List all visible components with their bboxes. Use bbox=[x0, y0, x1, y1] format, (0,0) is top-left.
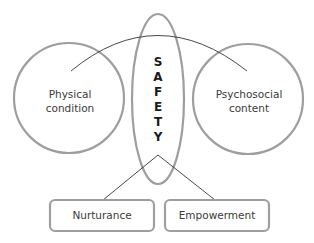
safety-letter-e: E bbox=[154, 100, 162, 114]
safety-letter-y: Y bbox=[153, 130, 163, 144]
safety-letter-s: S bbox=[154, 55, 163, 69]
safety-letter-a: A bbox=[153, 70, 163, 84]
nurturance-label: Nurturance bbox=[72, 209, 131, 221]
safety-letter-f: F bbox=[154, 85, 162, 99]
safety-ellipse bbox=[132, 14, 184, 184]
safety-diagram: Physical condition Psychosocial content … bbox=[0, 0, 314, 243]
empowerment-label: Empowerment bbox=[179, 209, 256, 221]
physical-condition-label-line1: Physical bbox=[49, 88, 92, 100]
connector-to-nurturance bbox=[103, 155, 158, 200]
psychosocial-content-label-line1: Psychosocial bbox=[216, 88, 283, 100]
safety-letter-t: T bbox=[154, 115, 163, 129]
psychosocial-content-label-line2: content bbox=[229, 102, 269, 114]
connector-to-empowerment bbox=[158, 155, 215, 200]
physical-condition-label-line2: condition bbox=[46, 102, 95, 114]
